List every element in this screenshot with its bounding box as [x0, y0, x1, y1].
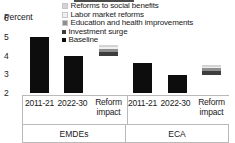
bar-reform-impact-stack	[99, 45, 118, 55]
stack-segment	[99, 45, 118, 47]
bar-baseline	[133, 63, 152, 93]
category-label: Reform impact	[89, 96, 126, 124]
category-label: 2022-30	[56, 96, 89, 124]
bar-reform-impact-stack	[202, 65, 221, 76]
chart-figure: Percent 65432 Reforms to social benefits…	[0, 0, 235, 143]
stack-segment	[99, 49, 118, 52]
legend-item-label: Baseline	[69, 36, 99, 44]
y-tick-2: 2	[4, 89, 19, 98]
legend-swatch-icon	[62, 20, 68, 26]
legend-swatch-icon	[62, 38, 66, 42]
category-label: 2011-21	[126, 96, 159, 124]
y-tick-3: 3	[4, 70, 19, 79]
category-label: 2022-30	[159, 96, 192, 124]
bar-baseline	[168, 75, 187, 93]
category-label: 2011-21	[23, 96, 56, 124]
legend-item-label: Reforms to social benefits	[71, 2, 159, 10]
legend-item: Baseline	[62, 36, 234, 44]
legend-swatch-icon	[62, 3, 68, 9]
bar-baseline	[30, 37, 49, 93]
group-label: EMDEs	[23, 124, 126, 143]
category-axis-table: 2011-212022-30Reform impact2011-212022-3…	[22, 95, 229, 143]
stack-segment	[99, 47, 118, 49]
stack-segment	[202, 67, 221, 69]
legend-swatch-icon	[62, 30, 66, 34]
group-label: ECA	[126, 124, 229, 143]
y-tick-4: 4	[4, 52, 19, 61]
legend-swatch-icon	[62, 12, 68, 18]
category-label: Reform impact	[192, 96, 229, 124]
legend-item: Reforms to social benefits	[62, 2, 234, 10]
group-divider	[127, 96, 128, 124]
legend-item-label: Education and health improvements	[71, 19, 194, 27]
legend-item: Education and health improvements	[62, 19, 234, 27]
stack-segment	[99, 52, 118, 56]
legend: Reforms to social benefitsLabor market r…	[62, 2, 234, 45]
group-label-row: EMDEsECA	[23, 124, 229, 143]
y-tick-5: 5	[4, 33, 19, 42]
bar-baseline	[64, 56, 83, 94]
stack-segment	[202, 71, 221, 75]
stack-segment	[202, 65, 221, 67]
stack-segment	[202, 68, 221, 71]
y-tick-6: 6	[4, 14, 19, 23]
